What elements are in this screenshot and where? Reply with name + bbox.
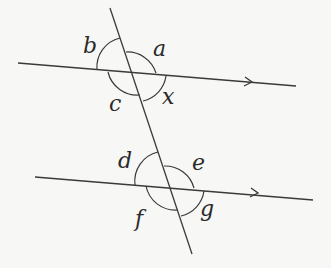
angle-label-a: a (153, 36, 166, 61)
angle-label-x: x (162, 84, 175, 109)
angle-label-c: c (109, 91, 121, 116)
upper-parallel-line (18, 63, 296, 86)
transversal-line (110, 8, 192, 254)
angle-label-e: e (192, 150, 205, 175)
angle-label-f: f (133, 206, 147, 231)
parallel-lines-diagram: b a c x d e f g (0, 0, 331, 268)
angle-label-b: b (83, 33, 97, 58)
angle-label-g: g (200, 196, 214, 221)
angle-label-d: d (118, 148, 132, 173)
lower-parallel-line (35, 177, 313, 200)
